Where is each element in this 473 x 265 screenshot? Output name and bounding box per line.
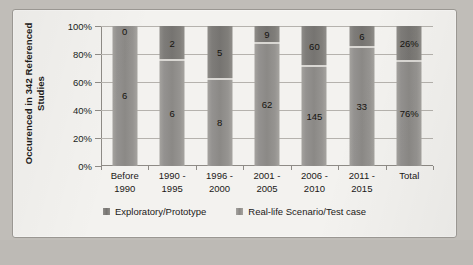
category-label-line: 1990 - bbox=[148, 170, 195, 183]
y-axis-tick-label: 0% bbox=[78, 161, 92, 172]
bar-segment-exploratory[interactable]: 26% bbox=[397, 26, 422, 62]
y-axis-tick-label: 100% bbox=[68, 21, 92, 32]
bar-column[interactable]: 62 bbox=[148, 26, 195, 166]
chart-frame: Occurenced in 342 Referenced Studies 0%2… bbox=[12, 9, 457, 238]
legend-swatch-reallife bbox=[236, 208, 243, 215]
y-axis-tick-label: 80% bbox=[73, 49, 92, 60]
bar-segment-label: 26% bbox=[397, 38, 422, 49]
bar-segment-label: 60 bbox=[302, 41, 327, 52]
bar-segment-exploratory[interactable]: 9 bbox=[254, 26, 279, 44]
x-axis-category-label: 2011 -2015 bbox=[338, 170, 385, 195]
bar-segment-label: 76% bbox=[397, 108, 422, 119]
bar-segment-exploratory[interactable]: 6 bbox=[349, 26, 374, 48]
bar-segment-reallife[interactable]: 145 bbox=[302, 67, 327, 166]
bar-segment-exploratory[interactable]: 60 bbox=[302, 26, 327, 67]
x-axis-category-label: 2006 -2010 bbox=[291, 170, 338, 195]
x-axis-category-label: 1996 -2000 bbox=[196, 170, 243, 195]
category-label-line: 1990 bbox=[101, 183, 148, 196]
stacked-bar[interactable]: 76%26% bbox=[397, 26, 422, 166]
category-label-line: 2011 - bbox=[338, 170, 385, 183]
bar-column[interactable]: 85 bbox=[196, 26, 243, 166]
bar-segment-reallife[interactable]: 62 bbox=[254, 44, 279, 166]
bar-segment-label: 145 bbox=[302, 111, 327, 122]
bar-segment-reallife[interactable]: 6 bbox=[112, 26, 137, 166]
y-axis-tick-label: 40% bbox=[73, 105, 92, 116]
bar-segment-reallife[interactable]: 76% bbox=[397, 62, 422, 166]
legend-item[interactable]: Exploratory/Prototype bbox=[103, 206, 206, 217]
category-label-line: 2005 bbox=[243, 183, 290, 196]
y-axis-tick-label: 60% bbox=[73, 77, 92, 88]
category-label-line: 2001 - bbox=[243, 170, 290, 183]
stacked-bar[interactable]: 85 bbox=[207, 26, 232, 166]
stacked-bar[interactable]: 62 bbox=[160, 26, 185, 166]
stacked-bar[interactable]: 60 bbox=[112, 26, 137, 166]
bar-segment-label: 62 bbox=[254, 99, 279, 110]
category-label-line: 2000 bbox=[196, 183, 243, 196]
legend-item[interactable]: Real-life Scenario/Test case bbox=[236, 206, 366, 217]
scanned-page: Occurenced in 342 Referenced Studies 0%2… bbox=[0, 0, 473, 265]
bar-segment-reallife[interactable]: 6 bbox=[160, 61, 185, 166]
legend-label: Real-life Scenario/Test case bbox=[248, 206, 366, 217]
bar-column[interactable]: 60 bbox=[101, 26, 148, 166]
bar-segment-label: 6 bbox=[160, 108, 185, 119]
legend-label: Exploratory/Prototype bbox=[115, 206, 206, 217]
bar-segment-label: 8 bbox=[207, 117, 232, 128]
bar-segment-reallife[interactable]: 8 bbox=[207, 80, 232, 166]
bar-segment-label: 2 bbox=[160, 38, 185, 49]
bar-segment-exploratory[interactable]: 5 bbox=[207, 26, 232, 80]
stacked-bar[interactable]: 629 bbox=[254, 26, 279, 166]
category-label-line: Before bbox=[101, 170, 148, 183]
y-axis-title: Occurenced in 342 Referenced Studies bbox=[23, 9, 46, 179]
category-label-line: 2006 - bbox=[291, 170, 338, 183]
category-label-line: Total bbox=[386, 170, 433, 183]
bar-column[interactable]: 14560 bbox=[291, 26, 338, 166]
legend-swatch-exploratory bbox=[103, 208, 110, 215]
category-label-line: 2015 bbox=[338, 183, 385, 196]
category-label-line: 1996 - bbox=[196, 170, 243, 183]
bar-segment-label: 9 bbox=[254, 29, 279, 40]
category-label-line: 1995 bbox=[148, 183, 195, 196]
bar-column[interactable]: 76%26% bbox=[386, 26, 433, 166]
bar-segment-reallife[interactable]: 33 bbox=[349, 48, 374, 166]
bar-segment-label: 33 bbox=[349, 101, 374, 112]
chart-legend: Exploratory/PrototypeReal-life Scenario/… bbox=[13, 206, 456, 217]
plot-area: 0%20%40%60%80%100% 6062856291456033676%2… bbox=[101, 26, 433, 166]
x-axis-separator bbox=[433, 166, 434, 170]
x-axis-category-label: Total bbox=[386, 170, 433, 183]
bar-segment-label: 0 bbox=[122, 26, 127, 37]
y-axis-tick-label: 20% bbox=[73, 133, 92, 144]
bar-column[interactable]: 629 bbox=[243, 26, 290, 166]
bar-segment-label: 5 bbox=[207, 47, 232, 58]
bar-segment-label: 6 bbox=[112, 90, 137, 101]
page-margin bbox=[0, 240, 473, 265]
stacked-bar[interactable]: 14560 bbox=[302, 26, 327, 166]
x-axis-category-label: 2001 -2005 bbox=[243, 170, 290, 195]
bar-segment-label: 6 bbox=[349, 31, 374, 42]
stacked-bar[interactable]: 336 bbox=[349, 26, 374, 166]
x-axis-category-label: 1990 -1995 bbox=[148, 170, 195, 195]
x-axis-category-label: Before1990 bbox=[101, 170, 148, 195]
category-label-line: 2010 bbox=[291, 183, 338, 196]
bar-column[interactable]: 336 bbox=[338, 26, 385, 166]
bar-segment-exploratory[interactable]: 2 bbox=[160, 26, 185, 61]
